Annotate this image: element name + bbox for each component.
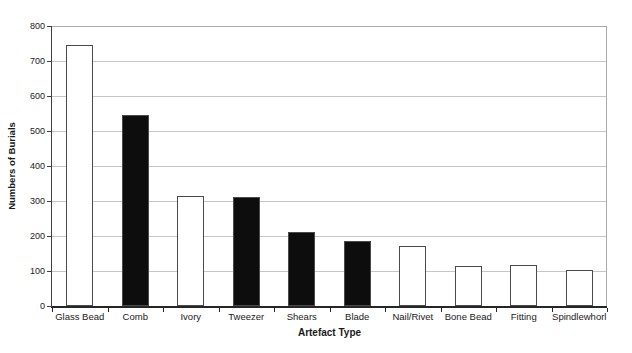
bar [288, 232, 315, 306]
y-tick-label: 700 [14, 56, 45, 66]
x-tick-mark [52, 308, 53, 312]
x-tick-mark [163, 308, 164, 312]
y-tick-mark [47, 201, 52, 202]
y-tick-mark [47, 131, 52, 132]
bar [122, 115, 149, 306]
bar-chart-figure: Numbers of Burials Artefact Type 0100200… [0, 0, 632, 353]
x-category-label: Nail/Rivet [392, 311, 433, 323]
y-tick-mark [47, 26, 52, 27]
x-category-label: Tweezer [228, 311, 264, 323]
bar [455, 266, 482, 306]
x-category-label: Bone Bead [445, 311, 492, 323]
bar [399, 246, 426, 306]
y-tick-label: 500 [14, 126, 45, 136]
x-tick-mark [496, 308, 497, 312]
y-tick-label: 600 [14, 91, 45, 101]
y-tick-mark [47, 61, 52, 62]
x-tick-mark [330, 308, 331, 312]
x-category-label: Fitting [511, 311, 537, 323]
x-category-label: Shears [287, 311, 317, 323]
y-tick-mark [47, 306, 52, 307]
y-tick-label: 0 [14, 301, 45, 311]
y-tick-mark [47, 166, 52, 167]
x-tick-mark [274, 308, 275, 312]
x-category-label: Spindlewhorl [552, 311, 606, 323]
bar [566, 270, 593, 306]
gridline [52, 96, 607, 97]
x-category-label: Ivory [180, 311, 201, 323]
gridline [52, 61, 607, 62]
y-tick-label: 200 [14, 231, 45, 241]
bar [177, 196, 204, 306]
y-tick-label: 300 [14, 196, 45, 206]
plot-border-top [52, 26, 607, 27]
x-category-label: Glass Bead [55, 311, 104, 323]
x-tick-mark [219, 308, 220, 312]
bar [233, 197, 260, 306]
x-tick-mark [108, 308, 109, 312]
bar [66, 45, 93, 306]
y-tick-mark [47, 236, 52, 237]
x-category-label: Comb [123, 311, 148, 323]
y-tick-label: 400 [14, 161, 45, 171]
x-tick-mark [385, 308, 386, 312]
y-tick-label: 100 [14, 266, 45, 276]
y-tick-mark [47, 271, 52, 272]
y-tick-mark [47, 96, 52, 97]
x-tick-mark [607, 308, 608, 312]
bar [510, 265, 537, 306]
bar [344, 241, 371, 306]
plot-border-right [606, 26, 607, 306]
x-category-label: Blade [345, 311, 369, 323]
x-axis-title: Artefact Type [52, 327, 607, 338]
y-tick-label: 800 [14, 21, 45, 31]
x-tick-mark [441, 308, 442, 312]
